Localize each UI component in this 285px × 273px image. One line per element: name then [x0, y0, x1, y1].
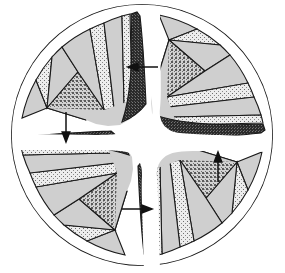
arm-top-left: [22, 12, 146, 126]
arm-bottom-right: [138, 144, 262, 258]
figure-root: Pinwheel tiling diagram Circular disc sp…: [0, 0, 285, 273]
pinwheel-diagram: Pinwheel tiling diagram Circular disc sp…: [0, 0, 285, 273]
arm-top-right: [151, 15, 265, 139]
